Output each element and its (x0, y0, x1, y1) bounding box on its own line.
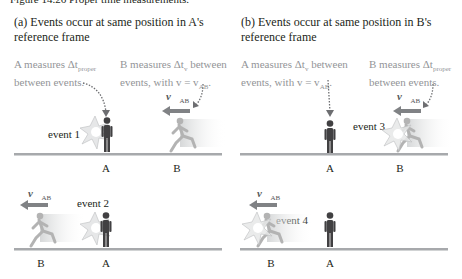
burst-icon (382, 118, 412, 152)
runner-b-icon (28, 212, 88, 248)
runner-b-icon (168, 117, 228, 153)
position-label-b: B (264, 257, 278, 269)
position-label-b: B (393, 162, 407, 174)
velocity-label: v⃗AB (397, 90, 420, 105)
person-a-icon (100, 117, 114, 153)
position-label-a: A (323, 162, 337, 174)
position-label-a: A (323, 257, 337, 269)
position-label-b: B (170, 162, 184, 174)
ground-line (14, 153, 222, 156)
ground-line (240, 248, 448, 251)
burst-icon (242, 212, 272, 246)
left-arrow-icon (162, 106, 192, 116)
left-arrow-icon (249, 200, 279, 210)
person-a-icon (323, 120, 337, 156)
event-1-label: event 1 (48, 128, 80, 140)
position-label-a: A (99, 162, 113, 174)
position-label-b: B (34, 257, 48, 269)
ground-line (240, 153, 448, 156)
left-arrow-icon (20, 200, 50, 210)
person-a-icon (323, 212, 337, 248)
left-arrow-icon (393, 106, 423, 116)
person-a-icon (99, 212, 113, 248)
velocity-label: v⃗AB (166, 90, 189, 105)
event-3-label: event 3 (353, 120, 385, 132)
ground-line (14, 248, 222, 251)
position-label-a: A (99, 257, 113, 269)
event-2-label: event 2 (77, 197, 109, 209)
